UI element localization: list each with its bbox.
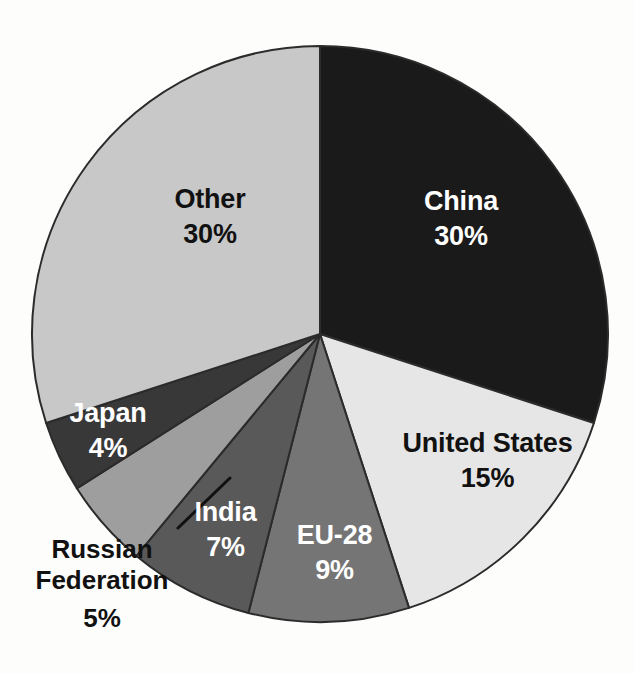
pie-chart-canvas [0, 0, 635, 674]
pie-chart-figure: China 30% United States 15% EU-28 9% Ind… [0, 0, 635, 674]
pie-slice-group [32, 46, 608, 622]
